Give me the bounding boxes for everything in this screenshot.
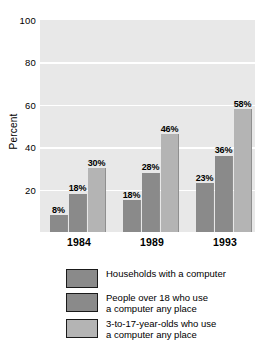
bar-rect: [50, 215, 68, 232]
legend-swatch-icon: [66, 269, 98, 288]
bar-value-label: 46%: [153, 124, 187, 134]
legend: Households with a computer People over 1…: [66, 268, 266, 344]
bar-rect: [161, 134, 179, 232]
x-tick-label-1989: 1989: [122, 236, 182, 248]
bar-1989-households[interactable]: 18%: [123, 20, 140, 232]
bar-rect: [123, 200, 141, 232]
y-tick-label: 100: [20, 15, 36, 26]
bar-rect: [142, 173, 160, 232]
bar-1984-adults[interactable]: 18%: [69, 20, 86, 232]
x-tick-label-1984: 1984: [49, 236, 109, 248]
legend-swatch-icon: [66, 319, 98, 338]
bar-rect: [88, 168, 106, 232]
y-tick-label: 20: [25, 184, 36, 195]
bar-rect: [196, 183, 214, 232]
y-axis-title: Percent: [8, 97, 19, 167]
legend-label-line2: a computer any place: [106, 303, 208, 314]
bar-rect: [69, 194, 87, 232]
legend-item-adults[interactable]: People over 18 who use a computer any pl…: [66, 292, 266, 314]
bar-chart: 100 80 60 40 20 Percent 8% 18% 30%: [0, 0, 269, 348]
legend-label: Households with a computer: [106, 268, 226, 279]
bar-1993-youth[interactable]: 58%: [234, 20, 251, 232]
y-tick-label: 40: [25, 142, 36, 153]
legend-label: People over 18 who use a computer any pl…: [106, 292, 208, 314]
legend-swatch-icon: [66, 293, 98, 312]
bar-1989-youth[interactable]: 46%: [161, 20, 178, 232]
x-tick-label-1993: 1993: [195, 236, 255, 248]
legend-item-households[interactable]: Households with a computer: [66, 268, 266, 288]
legend-label-line1: Households with a computer: [106, 268, 226, 279]
bar-value-label: 30%: [80, 158, 114, 168]
legend-label-line1: 3-to-17-year-olds who use: [106, 318, 216, 329]
bar-group-1984: 8% 18% 30%: [50, 20, 108, 232]
bar-groups: 8% 18% 30% 18% 28% 46%: [40, 20, 255, 232]
y-tick-label: 80: [25, 57, 36, 68]
bar-1984-households[interactable]: 8%: [50, 20, 67, 232]
legend-label-line2: a computer any place: [106, 329, 216, 340]
bar-rect: [234, 109, 252, 232]
legend-label-line1: People over 18 who use: [106, 292, 208, 303]
bar-1993-households[interactable]: 23%: [196, 20, 213, 232]
bar-1993-adults[interactable]: 36%: [215, 20, 232, 232]
legend-item-youth[interactable]: 3-to-17-year-olds who use a computer any…: [66, 318, 266, 340]
bar-value-label: 58%: [226, 99, 260, 109]
bar-rect: [215, 156, 233, 232]
bar-group-1993: 23% 36% 58%: [196, 20, 254, 232]
y-tick-label: 60: [25, 99, 36, 110]
x-axis: 1984 1989 1993: [40, 236, 255, 252]
legend-label: 3-to-17-year-olds who use a computer any…: [106, 318, 216, 340]
bar-1984-youth[interactable]: 30%: [88, 20, 105, 232]
bar-group-1989: 18% 28% 46%: [123, 20, 181, 232]
